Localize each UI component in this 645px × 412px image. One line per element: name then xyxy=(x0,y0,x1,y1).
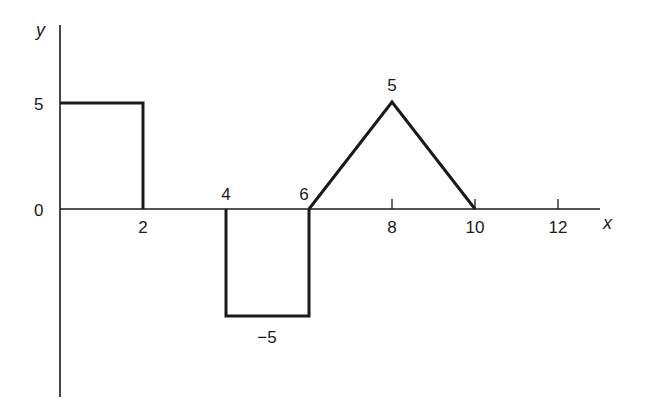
annotation-neg-5: −5 xyxy=(257,328,276,347)
series-line-negative-pulse xyxy=(226,209,309,316)
chart-canvas: y x 5 0 2 8 10 12 4 6 5 −5 xyxy=(0,0,645,412)
annotation-peak-5: 5 xyxy=(387,76,396,95)
x-axis-label: x xyxy=(602,213,613,233)
x-tick-label-10: 10 xyxy=(466,218,485,237)
annotation-4: 4 xyxy=(221,185,230,204)
y-tick-label-5: 5 xyxy=(34,95,43,114)
y-axis-label: y xyxy=(34,20,46,40)
y-tick-label-0: 0 xyxy=(34,201,43,220)
x-tick-label-12: 12 xyxy=(549,218,568,237)
x-tick-label-8: 8 xyxy=(387,218,396,237)
annotation-6: 6 xyxy=(299,185,308,204)
series-line xyxy=(60,103,143,209)
series-line-triangle xyxy=(309,102,475,209)
x-tick-label-2: 2 xyxy=(138,218,147,237)
